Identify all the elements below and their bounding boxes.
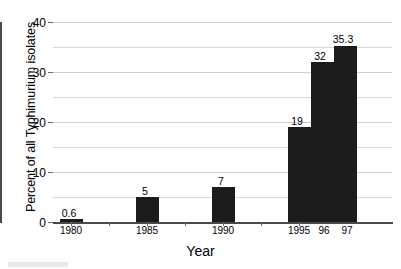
y-tick-mark-10 [48, 172, 53, 173]
y-tick-label-40: 40 [16, 17, 46, 29]
gridline-40 [53, 22, 392, 23]
x-tick-mark-minor-2 [185, 222, 186, 226]
bar-value-97: 35.3 [322, 34, 364, 45]
y-tick-mark-0 [48, 222, 53, 223]
x-axis-title: Year [0, 243, 401, 259]
bar-97[interactable] [334, 46, 357, 223]
y-axis-line [0, 22, 2, 223]
bar-value-1985: 5 [124, 186, 166, 197]
x-tick-label-1980: 1980 [51, 226, 91, 236]
bar-1990[interactable] [212, 187, 235, 222]
x-tick-mark-minor-3 [261, 222, 262, 226]
y-tick-label-10: 10 [16, 167, 46, 179]
plot-area [53, 22, 392, 222]
y-tick-label-0: 0 [16, 217, 46, 229]
y-tick-label-30: 30 [16, 67, 46, 79]
bar-value-96: 32 [299, 51, 341, 62]
x-tick-label-97: 97 [327, 226, 367, 236]
x-tick-mark-minor-1 [109, 222, 110, 226]
bar-value-1990: 7 [200, 176, 242, 187]
bar-value-1980: 0.6 [48, 208, 90, 219]
bar-value-1995: 19 [276, 116, 318, 127]
y-tick-mark-30 [48, 72, 53, 73]
page-artifact [8, 262, 68, 267]
bar-96[interactable] [311, 62, 334, 222]
bar-chart-figure: Percent of all Typhimurium isolates 40 3… [0, 0, 401, 269]
y-tick-mark-40 [48, 22, 53, 23]
bar-1995[interactable] [288, 127, 311, 222]
y-tick-label-20: 20 [16, 117, 46, 129]
y-tick-mark-20 [48, 122, 53, 123]
x-tick-label-1985: 1985 [127, 226, 167, 236]
x-tick-label-1990: 1990 [203, 226, 243, 236]
bar-1985[interactable] [136, 197, 159, 222]
